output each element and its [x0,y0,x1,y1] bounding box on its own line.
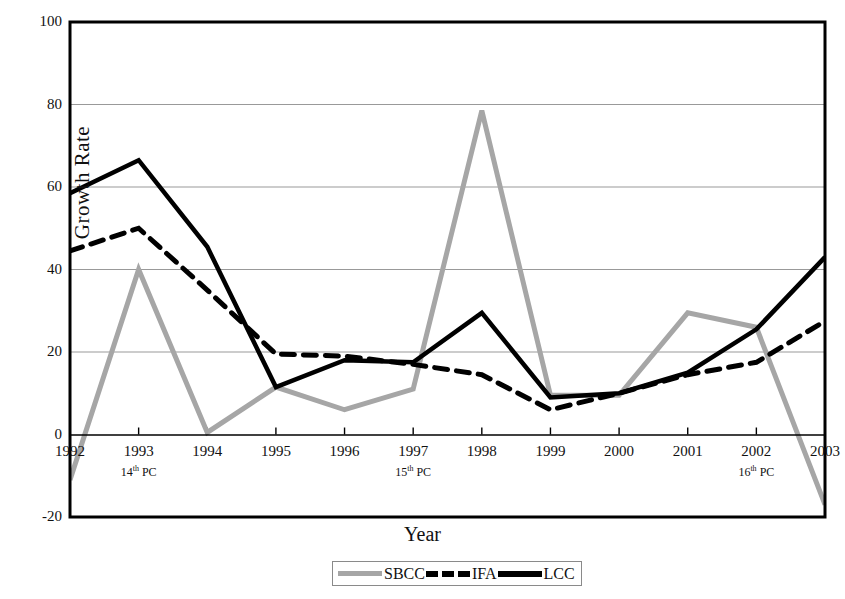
x-tick-label: 2003 [780,444,845,459]
y-tick-label: 100 [22,14,62,29]
x-axis-annotation: 14th PC [84,465,194,478]
chart-legend: SBCC IFA LCC [332,561,582,586]
y-axis-title: Growth Rate [70,83,95,283]
legend-item-sbcc: SBCC [338,566,426,582]
chart-plot-svg [0,0,845,599]
legend-label-lcc: LCC [543,566,576,582]
legend-swatch-sbcc-icon [338,571,382,576]
x-axis-annotation: 15th PC [358,465,468,478]
x-axis-title: Year [0,523,845,546]
y-tick-label: 60 [22,179,62,194]
legend-label-ifa: IFA [471,566,498,582]
y-tick-label: 80 [22,97,62,112]
x-axis-annotation: 16th PC [701,465,811,478]
legend-item-ifa: IFA [426,566,498,582]
chart-figure: Growth Rate 100806040200-20 199219931994… [0,0,845,599]
y-tick-label: 0 [22,427,62,442]
y-tick-label: 40 [22,262,62,277]
x-tick-marks [70,428,825,435]
gridlines [70,105,825,353]
legend-item-lcc: LCC [498,566,576,582]
legend-swatch-lcc-icon [498,571,542,577]
y-tick-label: 20 [22,344,62,359]
y-tick-label: -20 [22,509,62,524]
legend-swatch-ifa-icon [426,571,470,577]
legend-label-sbcc: SBCC [383,566,426,582]
